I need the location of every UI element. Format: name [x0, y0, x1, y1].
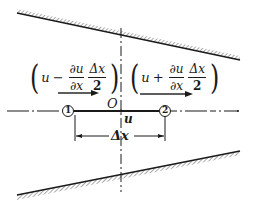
close-paren: ) — [210, 60, 219, 94]
expr-operator: + — [153, 70, 164, 85]
origin-label: O — [107, 97, 118, 110]
expr-var: u — [41, 70, 49, 85]
left-velocity-expression: ( u − ∂u ∂x Δx 2 ) — [28, 60, 121, 94]
open-paren: ( — [130, 60, 139, 94]
delta-fraction: Δx 2 — [88, 62, 105, 93]
upper-wall — [17, 9, 240, 60]
expr-var: u — [141, 70, 149, 85]
delta-x-label: Δx — [111, 129, 129, 142]
channel-flow-diagram: 1 2 O u Δx ( u − ∂u ∂x Δx 2 ) ( u + ∂u ∂… — [0, 0, 259, 214]
open-paren: ( — [30, 60, 39, 94]
delta-fraction: Δx 2 — [188, 62, 205, 93]
diagram-graphics — [0, 0, 259, 214]
point-2-label: 2 — [162, 106, 168, 115]
close-paren: ) — [110, 60, 119, 94]
right-velocity-expression: ( u + ∂u ∂x Δx 2 ) — [128, 60, 221, 94]
point-1-label: 1 — [65, 106, 71, 115]
expr-operator: − — [53, 70, 64, 85]
velocity-label: u — [124, 113, 133, 125]
lower-wall — [17, 151, 240, 200]
partial-fraction: ∂u ∂x — [169, 62, 185, 93]
partial-fraction: ∂u ∂x — [69, 62, 85, 93]
